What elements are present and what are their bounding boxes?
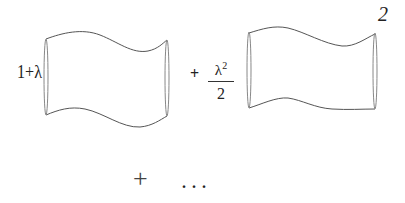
plus-operator-1: + bbox=[190, 66, 199, 82]
fraction-bar bbox=[208, 81, 234, 82]
tube-1-bottom-edge bbox=[46, 108, 167, 127]
tube-2-right-boundary bbox=[373, 33, 377, 109]
tube-2 bbox=[247, 27, 377, 109]
tube-1 bbox=[44, 32, 169, 127]
term-2-coefficient-fraction: λ2 2 bbox=[207, 58, 235, 102]
fraction-numerator: λ2 bbox=[207, 58, 235, 78]
tube-1-left-boundary bbox=[44, 39, 48, 115]
plus-operator-2: + bbox=[133, 166, 148, 192]
fraction-denominator: 2 bbox=[207, 85, 235, 102]
exponent: 2 bbox=[222, 60, 227, 71]
tube-1-top-edge bbox=[46, 32, 167, 52]
tube-2-top-edge bbox=[249, 27, 375, 46]
term-1-coefficient: 1+λ bbox=[17, 62, 42, 81]
ellipsis: ... bbox=[182, 175, 212, 191]
tube-2-left-boundary bbox=[247, 32, 251, 108]
diagram-canvas bbox=[0, 0, 405, 203]
tube-2-bottom-edge bbox=[249, 98, 375, 110]
tube-1-right-boundary bbox=[165, 40, 169, 116]
tube-2-label: 2 bbox=[378, 4, 388, 24]
